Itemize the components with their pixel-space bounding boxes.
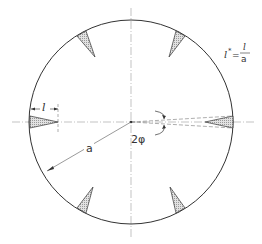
radius-arrowhead (47, 166, 54, 171)
normalized-length-formula: l * = l a (224, 42, 250, 64)
svg-text:l: l (243, 42, 246, 52)
svg-text:=: = (232, 50, 240, 60)
notch-0deg (205, 116, 233, 128)
angle-arrows (155, 111, 164, 135)
angle-label: 2φ (131, 133, 145, 146)
notch-lower-left (77, 187, 93, 213)
notch-180deg (30, 116, 58, 128)
notched-disk-diagram: a l 2φ l * = l a (0, 0, 262, 244)
notch-lower-right (170, 187, 185, 213)
svg-text:a: a (241, 54, 247, 64)
notch-upper-right (169, 31, 185, 57)
notch-upper-left (77, 31, 95, 57)
notch-length-label: l (42, 101, 46, 114)
svg-text:l: l (224, 49, 227, 60)
radius-label: a (86, 142, 93, 155)
